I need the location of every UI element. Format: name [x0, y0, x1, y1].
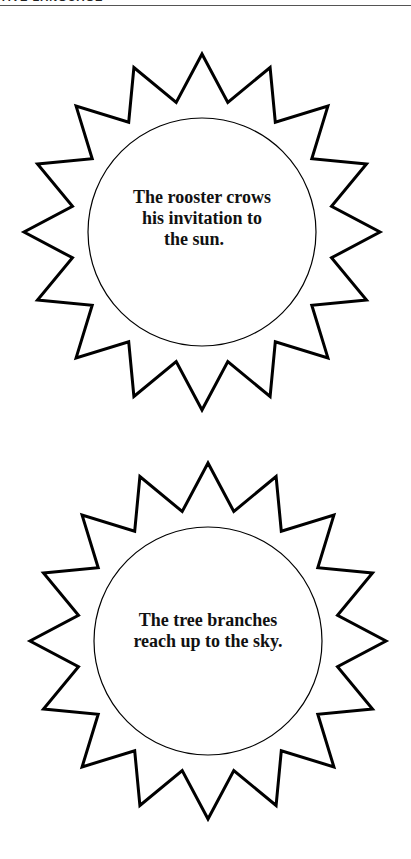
- caption-line: reach up to the sky.: [98, 631, 318, 652]
- sun-figure-2: The tree branches reach up to the sky.: [0, 0, 411, 859]
- caption-line: The tree branches: [98, 610, 318, 631]
- sun-shape-icon: [0, 0, 411, 859]
- sun-caption-2: The tree branches reach up to the sky.: [98, 610, 318, 652]
